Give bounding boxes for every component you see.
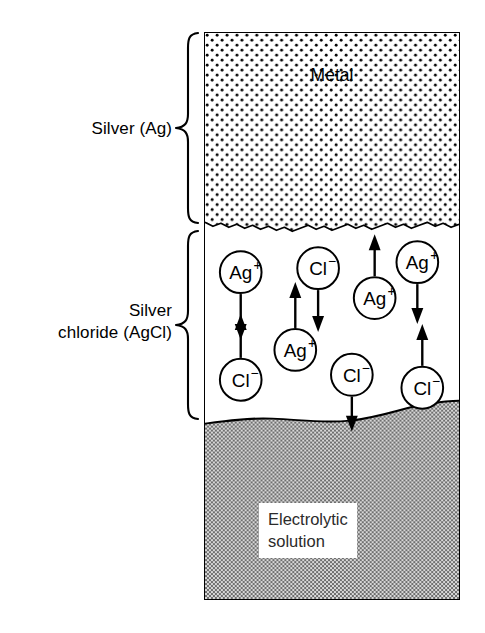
- svg-text:−: −: [251, 365, 259, 381]
- svg-text:Ag: Ag: [229, 262, 252, 283]
- svg-text:+: +: [387, 283, 395, 299]
- metal-layer-caption: Metal: [205, 65, 459, 86]
- layer-label-silver-chloride: Silver chloride (AgCl): [0, 300, 172, 344]
- electrode-cross-section: Ag+ Cl− Cl− Ag+ Ag+ Cl− Ag+ Cl− Metal El…: [204, 32, 460, 600]
- svg-text:Ag: Ag: [363, 288, 386, 309]
- ion-arrow-up: [369, 234, 381, 276]
- ion-arrow-up: [235, 314, 247, 358]
- svg-text:−: −: [328, 253, 336, 269]
- svg-text:Cl: Cl: [232, 370, 250, 391]
- svg-text:−: −: [362, 360, 370, 376]
- svg-text:Ag: Ag: [406, 252, 429, 273]
- ion-arrow-up: [289, 282, 301, 328]
- svg-text:−: −: [432, 373, 440, 389]
- brace-silver-chloride: [172, 228, 202, 422]
- svg-text:Cl: Cl: [343, 365, 361, 386]
- svg-text:+: +: [430, 247, 438, 263]
- svg-text:Ag: Ag: [284, 340, 307, 361]
- svg-text:+: +: [254, 257, 262, 273]
- ion-arrow-up: [416, 324, 428, 366]
- electrolyte-layer-fill: [205, 392, 459, 599]
- layer-label-silver: Silver (Ag): [0, 118, 172, 140]
- figure-root: Silver (Ag) Silver chloride (AgCl): [0, 0, 485, 633]
- metal-layer-fill: [205, 33, 459, 232]
- electrolyte-layer-caption: Electrolytic solution: [259, 503, 357, 558]
- brace-silver: [172, 30, 202, 226]
- svg-text:Cl: Cl: [309, 258, 327, 279]
- ion-arrow-down: [411, 284, 423, 324]
- svg-text:+: +: [308, 335, 316, 351]
- svg-text:Cl: Cl: [413, 378, 431, 399]
- ion-arrow-down: [312, 290, 324, 332]
